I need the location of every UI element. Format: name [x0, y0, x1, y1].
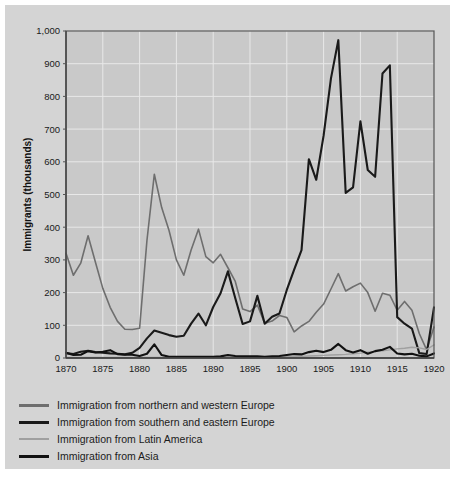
legend-label-northern-western-europe: Immigration from northern and western Eu… — [57, 399, 275, 411]
x-tick-label: 1905 — [313, 363, 334, 374]
y-tick-label: 200 — [44, 287, 60, 298]
immigration-line-chart: 01002003004005006007008009001,000 187018… — [5, 5, 450, 375]
y-tick-label: 0 — [55, 352, 60, 363]
x-tick-label: 1890 — [203, 363, 224, 374]
y-tick-label: 900 — [44, 58, 60, 69]
figure-panel: 01002003004005006007008009001,000 187018… — [5, 5, 450, 469]
x-tick-label: 1920 — [423, 363, 444, 374]
legend-label-latin-america: Immigration from Latin America — [57, 433, 202, 445]
y-tick-label: 1,000 — [36, 25, 60, 36]
legend-swatch-asia — [19, 455, 49, 458]
legend-item-northern-western-europe: Immigration from northern and western Eu… — [19, 397, 439, 413]
chart-plot-area: 01002003004005006007008009001,000 187018… — [5, 5, 450, 375]
y-tick-label: 600 — [44, 156, 60, 167]
y-tick-label: 500 — [44, 189, 60, 200]
legend-item-asia: Immigration from Asia — [19, 448, 439, 464]
y-tick-label: 700 — [44, 124, 60, 135]
y-tick-label: 300 — [44, 254, 60, 265]
legend-item-latin-america: Immigration from Latin America — [19, 431, 439, 447]
legend-swatch-northern-western-europe — [19, 404, 49, 407]
y-axis-tick-labels: 01002003004005006007008009001,000 — [36, 25, 66, 363]
x-tick-label: 1870 — [55, 363, 76, 374]
legend-label-asia: Immigration from Asia — [57, 450, 159, 462]
x-tick-label: 1915 — [387, 363, 408, 374]
x-tick-label: 1895 — [239, 363, 260, 374]
x-tick-label: 1880 — [129, 363, 150, 374]
legend-swatch-latin-america — [19, 438, 49, 440]
y-tick-label: 800 — [44, 91, 60, 102]
x-tick-label: 1910 — [350, 363, 371, 374]
x-tick-label: 1875 — [92, 363, 113, 374]
legend-label-southern-eastern-europe: Immigration from southern and eastern Eu… — [57, 416, 275, 428]
y-tick-label: 100 — [44, 320, 60, 331]
y-axis-title-text: Immigrants (thousands) — [22, 138, 33, 252]
y-tick-label: 400 — [44, 222, 60, 233]
chart-legend: Immigration from northern and western Eu… — [19, 397, 439, 465]
y-axis-title: Immigrants (thousands) — [22, 138, 33, 252]
x-tick-label: 1900 — [276, 363, 297, 374]
legend-item-southern-eastern-europe: Immigration from southern and eastern Eu… — [19, 414, 439, 430]
legend-swatch-southern-eastern-europe — [19, 421, 49, 424]
x-axis-tick-labels: 1870187518801885189018951900190519101915… — [55, 363, 444, 374]
x-tick-label: 1885 — [166, 363, 187, 374]
